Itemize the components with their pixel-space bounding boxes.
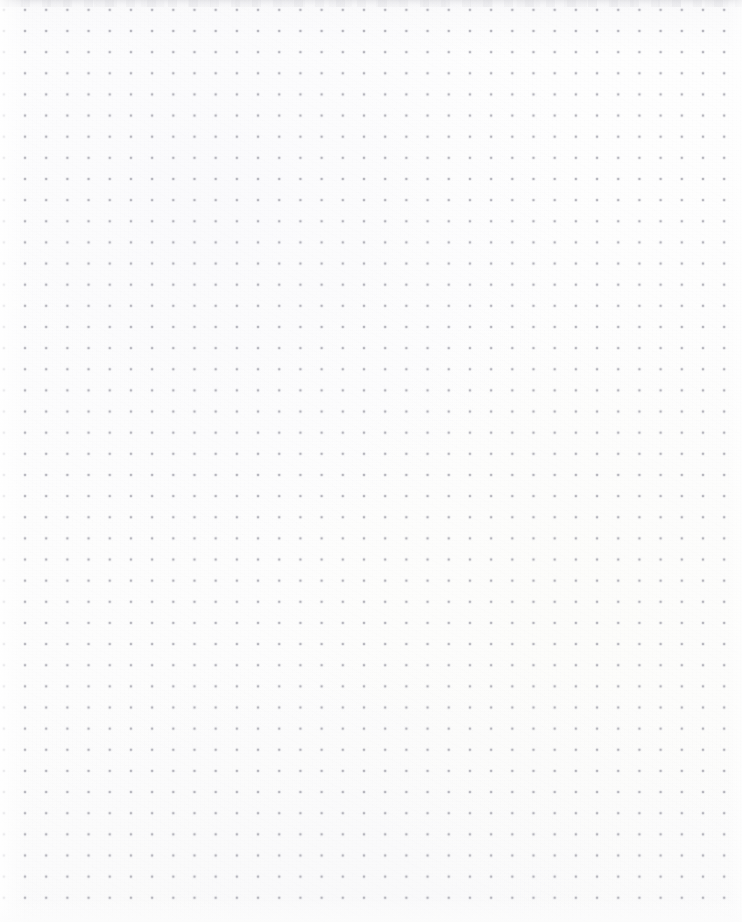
paper-background <box>0 0 742 922</box>
dot-grid-page <box>0 0 742 922</box>
